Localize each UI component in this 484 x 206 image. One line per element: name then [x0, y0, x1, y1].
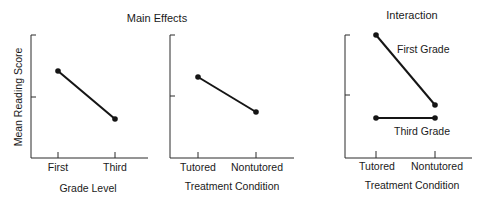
x-tick-label: Third — [103, 161, 127, 173]
data-point — [253, 109, 259, 115]
x-tick-label: First — [48, 161, 68, 173]
data-point — [432, 115, 438, 121]
data-point — [112, 116, 118, 122]
third-grade-label: Third Grade — [394, 125, 450, 137]
first-grade-label: First Grade — [397, 43, 450, 55]
panel-interaction: First Grade Third Grade Tutored Nontutor… — [345, 32, 472, 191]
x-tick-label: Nontutored — [231, 161, 283, 173]
x-tick-label: Nontutored — [411, 160, 463, 172]
main-effects-title: Main Effects — [127, 12, 188, 24]
x-tick-label: Tutored — [359, 160, 395, 172]
interaction-title: Interaction — [386, 9, 437, 21]
x-axis-label: Treatment Condition — [365, 179, 460, 191]
data-point — [432, 102, 438, 108]
figure: Main Effects Interaction Mean Reading Sc… — [0, 0, 484, 206]
panel2-line — [198, 77, 256, 112]
data-point — [55, 68, 61, 74]
x-axis-label: Treatment Condition — [185, 180, 280, 192]
x-tick-label: Tutored — [180, 161, 216, 173]
y-axis-label: Mean Reading Score — [12, 48, 24, 147]
data-point — [195, 74, 201, 80]
panel-grade-level: First Third Grade Level — [31, 35, 148, 194]
data-point — [373, 32, 379, 38]
x-axis-label: Grade Level — [59, 182, 116, 194]
panel-treatment-condition: Tutored Nontutored Treatment Condition — [170, 35, 294, 192]
panel1-line — [58, 71, 115, 119]
data-point — [373, 115, 379, 121]
